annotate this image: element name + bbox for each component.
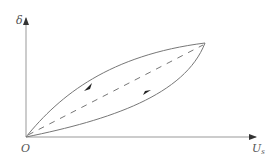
dashed-mid-line — [28, 45, 203, 135]
x-axis-label-main: U — [252, 142, 261, 155]
x-axis-label: Us — [252, 143, 265, 156]
arrow-up-right-icon — [143, 90, 151, 95]
origin-label: O — [21, 143, 30, 154]
hysteresis-diagram — [0, 0, 273, 159]
arrow-down-left-icon — [84, 83, 92, 91]
y-axis-label: δ — [16, 15, 23, 26]
x-axis-label-sub: s — [261, 148, 265, 156]
